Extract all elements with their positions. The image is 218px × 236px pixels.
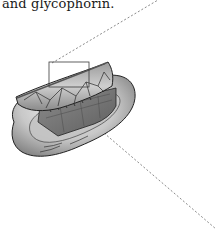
callout-line-upper — [52, 0, 158, 63]
erythrocyte-illustration — [0, 0, 218, 236]
callout-line-lower — [104, 133, 216, 229]
